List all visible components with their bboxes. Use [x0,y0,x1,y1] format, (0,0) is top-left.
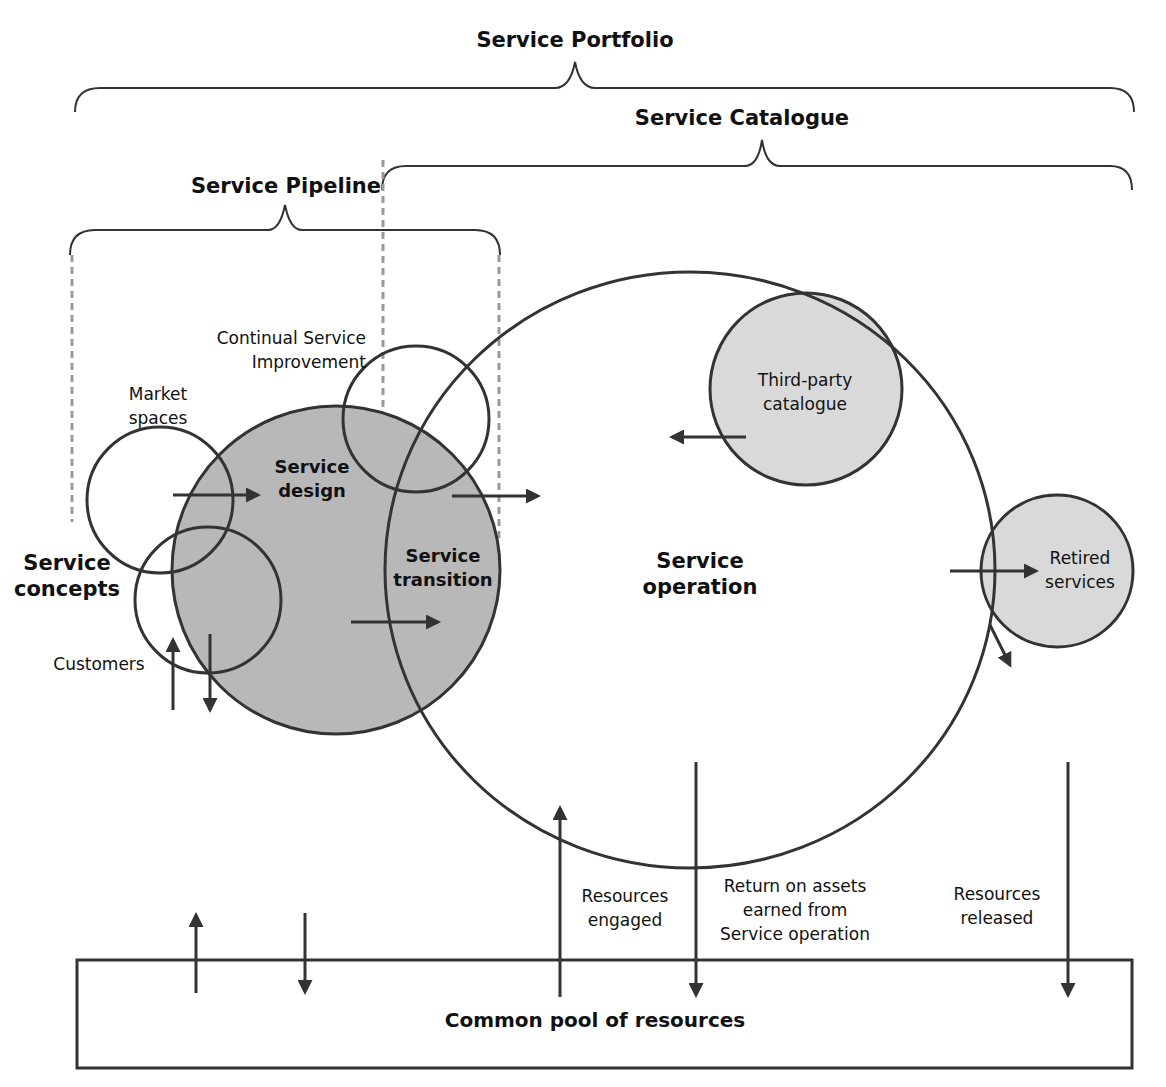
market-spaces-label: Marketspaces [108,382,208,430]
service-transition-label: Servicetransition [385,544,501,592]
catalogue-label: Service Catalogue [632,106,852,131]
service-operation-label: Serviceoperation [620,548,780,600]
pipeline-label: Service Pipeline [188,174,384,199]
service-concepts-label: Serviceconcepts [0,550,134,602]
portfolio-label: Service Portfolio [475,28,675,53]
portfolio-bracket [75,62,1134,112]
resources-released-label: Resourcesreleased [942,882,1052,930]
csi-label: Continual ServiceImprovement [186,326,366,374]
service-design-label: Servicedesign [262,455,362,503]
common-pool-label: Common pool of resources [420,1008,770,1032]
pipeline-bracket [70,205,500,255]
retired-label: Retiredservices [1028,546,1132,594]
resources-engaged-label: Resourcesengaged [570,884,680,932]
customers-label: Customers [44,652,154,676]
catalogue-bracket [382,140,1132,190]
third-party-label: Third-partycatalogue [735,368,875,416]
arrow-retired-down [990,625,1010,665]
return-on-assets-label: Return on assetsearned fromService opera… [705,874,885,946]
